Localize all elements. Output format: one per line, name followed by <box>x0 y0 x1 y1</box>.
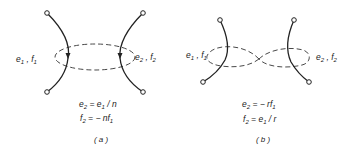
equation-a-1: e2 = e1 / n <box>79 99 117 110</box>
coupling-loop-b-right <box>259 48 309 67</box>
left-port-bottom-terminal-a <box>45 90 50 95</box>
right-port-arrow-icon-a <box>118 53 123 59</box>
left-port-wire-a <box>47 13 69 92</box>
two-port-diagram: e1 , f1 e2 , f2 e2 = e1 / n f2 = − nf1 (… <box>0 0 350 161</box>
left-port-top-terminal-b <box>218 18 223 23</box>
right-port-bottom-terminal-a <box>141 90 146 95</box>
port-label-left-b: e1 , f1 <box>186 50 207 61</box>
right-port-bottom-terminal-b <box>307 80 312 85</box>
left-port-bottom-terminal-b <box>201 80 206 85</box>
panel-b: e1 , f1 e2 , f2 e2 = − rf1 f2 = e1 / r (… <box>186 18 338 144</box>
port-label-right-b: e2 , f2 <box>316 52 338 63</box>
panel-a: e1 , f1 e2 , f2 e2 = e1 / n f2 = − nf1 (… <box>16 11 157 144</box>
port-label-left-a: e1 , f1 <box>16 54 37 65</box>
equation-a-2: f2 = − nf1 <box>80 113 113 124</box>
port-label-right-a: e2 , f2 <box>135 52 157 63</box>
caption-a: ( a ) <box>94 135 109 144</box>
coupling-loop-b-left <box>207 47 259 67</box>
equation-b-2: f2 = e1 / r <box>243 114 278 125</box>
caption-b: ( b ) <box>256 135 271 144</box>
right-port-top-terminal-a <box>141 11 146 16</box>
right-port-top-terminal-b <box>292 18 297 23</box>
left-port-top-terminal-a <box>45 11 50 16</box>
left-port-wire-b <box>203 20 228 82</box>
left-port-arrow-icon-a <box>66 53 71 59</box>
equation-b-1: e2 = − rf1 <box>242 99 276 110</box>
